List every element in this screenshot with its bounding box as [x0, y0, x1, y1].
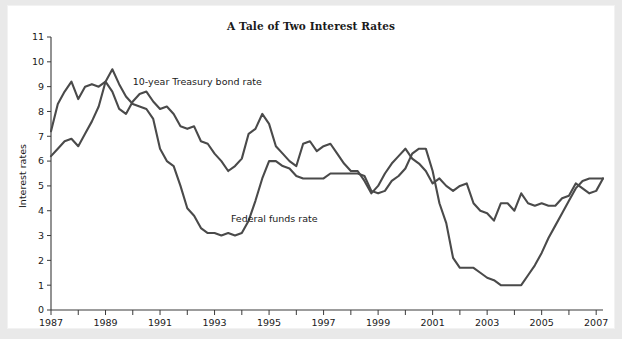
y-tick-label: 11	[32, 31, 44, 42]
x-tick-label: 1991	[148, 317, 172, 328]
series-lines	[51, 69, 603, 285]
interest-rates-line-chart: Interest rates 01234567891011 1987198919…	[8, 6, 614, 328]
y-tick-label: 3	[38, 230, 44, 241]
y-tick-label: 6	[38, 155, 44, 166]
y-axis-ticks: 01234567891011	[32, 31, 51, 315]
chart-card: A Tale of Two Interest Rates Interest ra…	[8, 6, 614, 328]
x-tick-label: 2003	[475, 317, 499, 328]
x-tick-label: 1993	[202, 317, 226, 328]
x-tick-label: 2007	[584, 317, 608, 328]
y-tick-label: 7	[38, 131, 44, 142]
series-annotation-label: 10-year Treasury bond rate	[133, 76, 262, 87]
y-tick-label: 2	[38, 255, 44, 266]
y-tick-label: 5	[38, 180, 44, 191]
x-tick-label: 1987	[39, 317, 63, 328]
series-annotation-label: Federal funds rate	[231, 213, 318, 224]
x-tick-label: 2001	[421, 317, 445, 328]
x-tick-label: 1989	[93, 317, 117, 328]
y-tick-label: 0	[38, 304, 44, 315]
y-tick-label: 9	[38, 81, 44, 92]
y-axis-title: Interest rates	[17, 144, 28, 208]
series-line	[51, 82, 603, 221]
x-tick-label: 1995	[257, 317, 281, 328]
x-axis-ticks: 1987198919911993199519971999200120032005…	[39, 310, 608, 328]
y-tick-label: 1	[38, 280, 44, 291]
y-tick-label: 4	[38, 205, 44, 216]
x-tick-label: 1999	[366, 317, 390, 328]
x-tick-label: 2005	[530, 317, 554, 328]
y-tick-label: 10	[32, 56, 44, 67]
y-tick-label: 8	[38, 106, 44, 117]
x-tick-label: 1997	[311, 317, 335, 328]
chart-page: A Tale of Two Interest Rates Interest ra…	[0, 0, 622, 339]
